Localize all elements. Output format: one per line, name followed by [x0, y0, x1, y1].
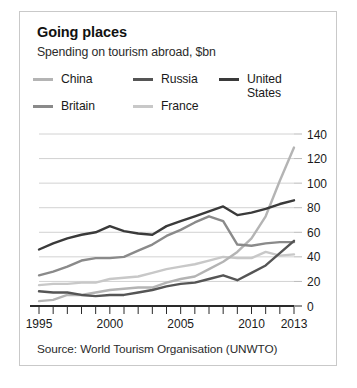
y-axis-label: 140: [307, 128, 327, 142]
y-axis-label: 120: [307, 152, 327, 166]
x-axis-label: 2000: [96, 317, 123, 331]
legend-swatch-china: [33, 78, 53, 81]
legend-item-united-states[interactable]: United States: [219, 72, 282, 100]
y-axis-label: 0: [307, 300, 314, 314]
legend-item-france[interactable]: France: [133, 99, 198, 113]
legend-swatch-france: [133, 105, 153, 108]
x-axis-label: 2013: [281, 317, 308, 331]
y-axis-label: 40: [307, 250, 321, 264]
y-axis-label: 80: [307, 201, 321, 215]
legend-label-france: France: [161, 99, 198, 113]
legend-swatch-united-states: [219, 78, 239, 81]
legend-swatch-britain: [33, 105, 53, 108]
x-axis-label: 2010: [238, 317, 265, 331]
x-axis-label: 2005: [167, 317, 194, 331]
chart-source: Source: World Tourism Organisation (UNWT…: [37, 342, 277, 356]
y-axis-label: 20: [307, 275, 321, 289]
legend-label-china: China: [61, 72, 92, 86]
legend-swatch-russia: [133, 78, 153, 81]
legend-item-britain[interactable]: Britain: [33, 99, 95, 113]
page-title: Going places: [37, 24, 127, 40]
legend-item-china[interactable]: China: [33, 72, 92, 86]
legend-label-united-states: United States: [247, 72, 282, 100]
chart-subtitle: Spending on tourism abroad, $bn: [37, 45, 216, 59]
series-line-china: [39, 148, 294, 302]
x-axis-label: 1995: [26, 317, 53, 331]
line-chart: 02040608010012014019952000200520102013: [20, 126, 336, 338]
y-axis-label: 100: [307, 177, 327, 191]
legend-label-britain: Britain: [61, 99, 95, 113]
legend-item-russia[interactable]: Russia: [133, 72, 198, 86]
legend-label-russia: Russia: [161, 72, 198, 86]
chart-plot-area: 02040608010012014019952000200520102013: [20, 126, 336, 338]
y-axis-label: 60: [307, 226, 321, 240]
chart-card: Going places Spending on tourism abroad,…: [19, 11, 337, 366]
